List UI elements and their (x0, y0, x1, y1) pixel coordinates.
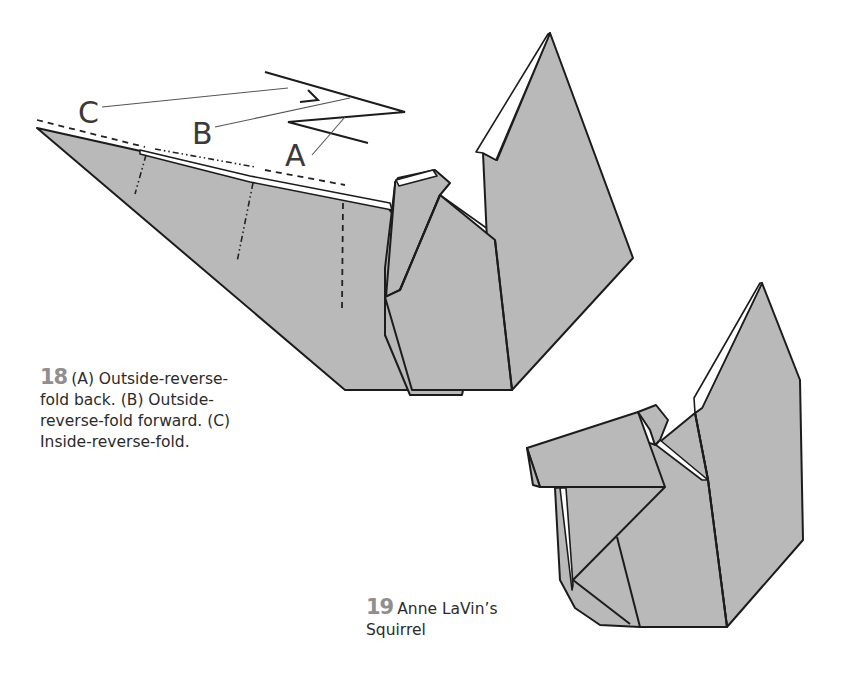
step-19-line-2: Squirrel (366, 621, 426, 639)
step-18-line-1: (A) Outside-reverse- (71, 370, 228, 388)
step-18-line-3: reverse-fold forward. (C) (40, 412, 230, 430)
step-18-caption: 18(A) Outside-reverse- fold back. (B) Ou… (40, 367, 270, 453)
step-19-number: 19 (366, 595, 393, 619)
step-19-caption: 19Anne LaVin’s Squirrel (366, 597, 536, 641)
step-18-line-4: Inside-reverse-fold. (40, 433, 190, 451)
step-18-line-2: fold back. (B) Outside- (40, 391, 214, 409)
step-19-line-1: Anne LaVin’s (397, 600, 497, 618)
step-18-number: 18 (40, 365, 67, 389)
step-19-diagram (0, 0, 865, 684)
book-page: C B A 18(A) Outside-reverse- fold back. … (0, 0, 865, 684)
